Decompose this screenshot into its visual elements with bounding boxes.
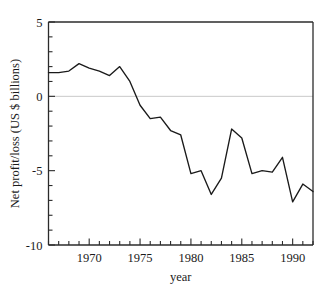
y-axis-tick-label: 0 <box>36 90 42 104</box>
x-axis-tick-label: 1980 <box>178 251 203 265</box>
x-axis-tick-label: 1970 <box>77 251 102 265</box>
x-axis-tick-label: 1990 <box>280 251 305 265</box>
x-axis-tick-label: 1985 <box>229 251 254 265</box>
x-axis-title: year <box>170 270 192 284</box>
chart-figure: 50-5-1019701975198019851990yearNet profi… <box>0 0 331 300</box>
x-axis-tick-label: 1975 <box>128 251 153 265</box>
y-axis-tick-label: -10 <box>26 239 43 253</box>
y-axis-title: Net profit/loss (US $ billions) <box>8 59 22 208</box>
y-axis-tick-label: -5 <box>32 164 42 178</box>
data-series-line <box>49 64 314 202</box>
y-axis-tick-label: 5 <box>36 16 42 30</box>
line-chart: 50-5-1019701975198019851990yearNet profi… <box>0 0 331 300</box>
